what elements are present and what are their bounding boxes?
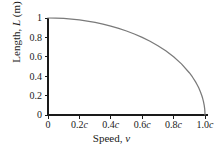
y-axis-title-symbol: L bbox=[10, 20, 22, 26]
x-tick-label: 1.0c bbox=[197, 119, 215, 130]
x-axis-tick-labels: 00.2c0.4c0.6c0.8c1.0c bbox=[46, 119, 215, 130]
x-tick-label: 0.2c bbox=[71, 119, 89, 130]
y-axis-tick-labels: 00.20.40.60.81 bbox=[30, 12, 43, 120]
x-tick-label: 0.4c bbox=[102, 119, 120, 130]
y-tick-label: 0.6 bbox=[30, 51, 43, 62]
x-tick-label: 0.6c bbox=[134, 119, 152, 130]
y-axis-title: Length, L (m) bbox=[10, 0, 22, 92]
x-axis-title-pre: Speed, bbox=[93, 132, 123, 144]
y-tick-label: 1 bbox=[37, 12, 42, 23]
y-tick-label: 0.2 bbox=[30, 90, 43, 101]
y-tick-label: 0.4 bbox=[30, 71, 43, 82]
length-contraction-curve bbox=[48, 18, 205, 115]
x-axis-title-symbol: v bbox=[125, 132, 130, 144]
x-tick-label: 0.8c bbox=[165, 119, 183, 130]
length-contraction-figure: 00.20.40.60.81 00.2c0.4c0.6c0.8c1.0c Len… bbox=[0, 0, 223, 155]
x-tick-label: 0 bbox=[46, 119, 51, 130]
y-tick-label: 0.8 bbox=[30, 32, 43, 43]
y-axis-title-pre: Length, bbox=[10, 29, 22, 63]
x-axis-title: Speed, v bbox=[0, 132, 223, 144]
y-axis-title-unit: (m) bbox=[10, 1, 22, 17]
y-tick-label: 0 bbox=[37, 109, 42, 120]
